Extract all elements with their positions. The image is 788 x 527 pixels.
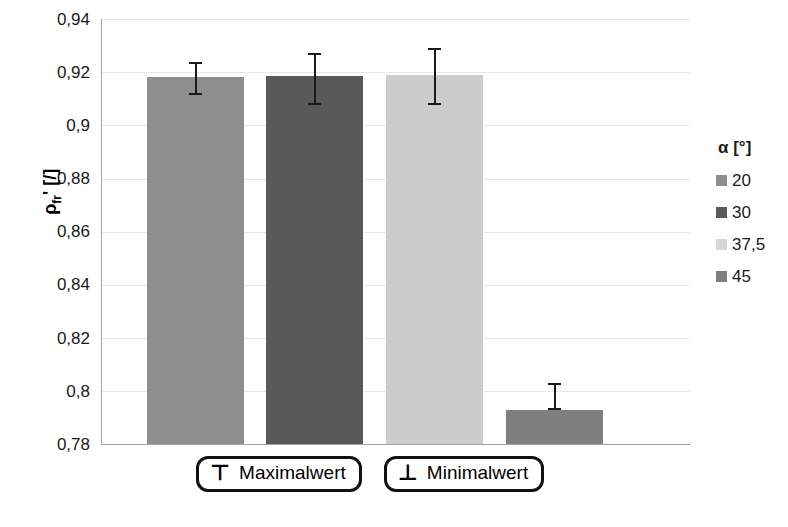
legend: α [°] 20 30 37,5 45 <box>706 138 788 300</box>
error-bar-cap-max <box>189 62 202 64</box>
y-tick-label: 0,8 <box>30 383 90 400</box>
y-axis-title-prime: ' <box>40 191 60 195</box>
bar-alpha-20[interactable] <box>147 77 244 444</box>
error-bar-cap-max <box>548 383 561 385</box>
error-bar-stem <box>195 62 197 95</box>
error-bar-cap-min <box>189 93 202 95</box>
chart-figure: 0,94 0,92 0,9 0,88 0,86 0,84 0,82 0,8 0,… <box>0 0 788 527</box>
legend-item-label: 20 <box>732 172 751 189</box>
error-bar-cap-min <box>548 408 561 410</box>
legend-item-30[interactable]: 30 <box>716 204 788 221</box>
marker-label: Maximalwert <box>239 462 346 484</box>
y-axis-title: ρfr' [/] <box>40 132 64 252</box>
bar-alpha-37-5[interactable] <box>386 75 483 444</box>
y-tick-label: 0,78 <box>30 436 90 453</box>
error-bar-stem <box>434 48 436 105</box>
y-axis-title-rho: ρ <box>40 204 60 215</box>
error-bar-alpha-20 <box>189 62 202 95</box>
y-tick-label: 0,82 <box>30 330 90 347</box>
gridline <box>102 19 690 20</box>
legend-swatch-icon <box>716 207 727 218</box>
error-bar-cap-max <box>428 48 441 50</box>
legend-swatch-icon <box>716 175 727 186</box>
marker-label: Minimalwert <box>427 462 528 484</box>
marker-legend-minimalwert: ⊥ Minimalwert <box>384 456 544 492</box>
bar-alpha-30[interactable] <box>266 76 363 444</box>
marker-legend: ⊤ Maximalwert ⊥ Minimalwert <box>196 456 544 492</box>
legend-item-label: 37,5 <box>732 236 765 253</box>
error-bar-alpha-45 <box>548 383 561 410</box>
legend-swatch-icon <box>716 239 727 250</box>
error-bar-cap-min <box>308 103 321 105</box>
y-tick-label: 0,92 <box>30 64 90 81</box>
marker-legend-maximalwert: ⊤ Maximalwert <box>196 456 362 492</box>
bar-alpha-45[interactable] <box>506 410 603 444</box>
legend-item-20[interactable]: 20 <box>716 172 788 189</box>
max-marker-icon: ⊤ <box>210 462 230 484</box>
y-tick-label: 0,84 <box>30 276 90 293</box>
error-bar-stem <box>314 53 316 105</box>
y-tick-label: 0,94 <box>30 11 90 28</box>
error-bar-cap-min <box>428 103 441 105</box>
legend-item-label: 45 <box>732 268 751 285</box>
error-bar-cap-max <box>308 53 321 55</box>
y-axis-title-unit: [/] <box>40 169 60 186</box>
legend-item-45[interactable]: 45 <box>716 268 788 285</box>
legend-swatch-icon <box>716 271 727 282</box>
plot-area <box>101 19 690 445</box>
y-axis-title-subscript: fr <box>50 195 64 204</box>
legend-title: α [°] <box>718 138 788 158</box>
error-bar-alpha-30 <box>308 53 321 105</box>
error-bar-alpha-37-5 <box>428 48 441 105</box>
legend-item-label: 30 <box>732 204 751 221</box>
legend-item-37-5[interactable]: 37,5 <box>716 236 788 253</box>
min-marker-icon: ⊥ <box>398 462 418 484</box>
error-bar-stem <box>554 383 556 410</box>
